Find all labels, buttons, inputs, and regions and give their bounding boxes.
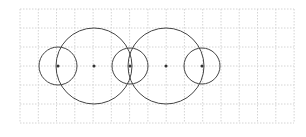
grid <box>20 9 294 123</box>
center-point <box>57 65 60 68</box>
center-point <box>165 65 168 68</box>
center-point <box>201 65 204 68</box>
center-point <box>129 65 132 68</box>
diagram-canvas <box>0 0 306 137</box>
center-point <box>93 65 96 68</box>
